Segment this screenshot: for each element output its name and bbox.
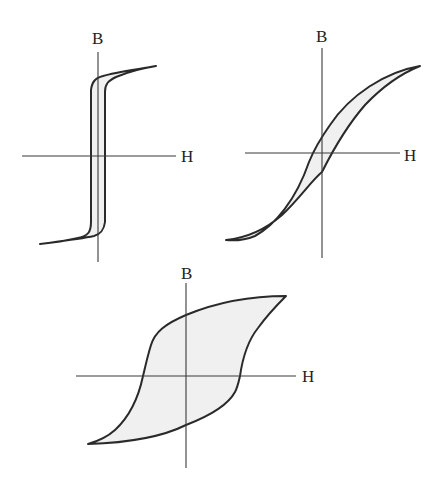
panel-2: B H (226, 27, 420, 258)
h-axis-label-3: H (302, 367, 314, 386)
b-axis-label-3: B (181, 264, 192, 283)
panel-1: B H (22, 29, 193, 262)
h-axis-label-2: H (404, 146, 416, 165)
hysteresis-loop-3 (88, 296, 286, 444)
h-axis-label-1: H (181, 147, 193, 166)
b-axis-label-1: B (92, 29, 103, 48)
hysteresis-figure: B H B H B H (0, 0, 444, 482)
b-axis-label-2: B (316, 27, 327, 46)
panel-3: B H (76, 264, 314, 468)
